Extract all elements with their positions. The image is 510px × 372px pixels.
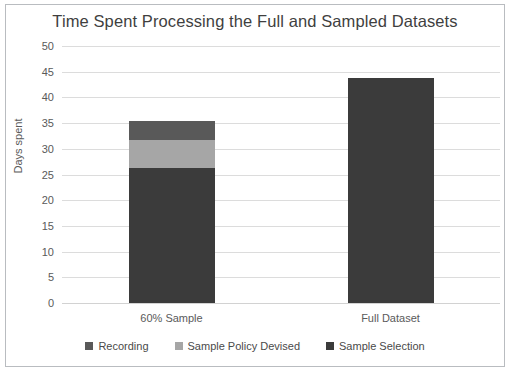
legend-swatch-icon — [85, 342, 93, 350]
y-axis-tick-label: 40 — [14, 91, 54, 103]
y-axis-tick-label: 35 — [14, 117, 54, 129]
legend-item[interactable]: Sample Policy Devised — [175, 340, 301, 352]
legend-item[interactable]: Recording — [85, 340, 148, 352]
legend-label: Sample Policy Devised — [188, 340, 301, 352]
y-axis-tick-labels: 05101520253035404550 — [8, 46, 54, 303]
y-axis-tick-label: 50 — [14, 40, 54, 52]
bar-segment[interactable] — [129, 140, 215, 169]
legend-label: Recording — [98, 340, 148, 352]
y-axis-tick-label: 5 — [14, 271, 54, 283]
legend-item[interactable]: Sample Selection — [326, 340, 425, 352]
x-axis-tick-labels: 60% SampleFull Dataset — [62, 312, 500, 330]
x-axis-tick-label: 60% Sample — [140, 312, 202, 324]
legend-swatch-icon — [326, 342, 334, 350]
chart-legend: RecordingSample Policy DevisedSample Sel… — [0, 340, 510, 352]
y-axis-tick-label: 30 — [14, 143, 54, 155]
y-axis-tick-label: 45 — [14, 66, 54, 78]
y-axis-tick-label: 20 — [14, 194, 54, 206]
bar-segment[interactable] — [129, 121, 215, 140]
chart-container: Time Spent Processing the Full and Sampl… — [0, 0, 510, 372]
bar-column[interactable] — [129, 46, 215, 303]
legend-swatch-icon — [175, 342, 183, 350]
gridline — [62, 303, 500, 304]
y-axis-tick-label: 25 — [14, 169, 54, 181]
plot-area — [62, 46, 500, 303]
bar-column[interactable] — [348, 46, 434, 303]
y-axis-tick-label: 0 — [14, 297, 54, 309]
y-axis-tick-label: 10 — [14, 246, 54, 258]
x-axis-tick-label: Full Dataset — [361, 312, 420, 324]
bar-segment[interactable] — [129, 168, 215, 303]
y-axis-tick-label: 15 — [14, 220, 54, 232]
bar-segment[interactable] — [348, 78, 434, 303]
chart-title: Time Spent Processing the Full and Sampl… — [0, 12, 510, 31]
legend-label: Sample Selection — [339, 340, 425, 352]
